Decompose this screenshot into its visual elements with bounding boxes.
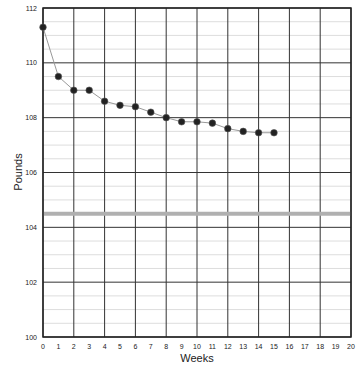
data-point: [148, 109, 155, 116]
svg-text:15: 15: [270, 343, 278, 350]
svg-text:104: 104: [25, 224, 37, 231]
svg-text:106: 106: [25, 169, 37, 176]
data-point: [271, 129, 278, 136]
y-axis-ticks: 100102104106108110112: [25, 5, 37, 341]
svg-text:100: 100: [25, 334, 37, 341]
svg-text:8: 8: [164, 343, 168, 350]
weight-chart: 01234567891011121314151617181920 1001021…: [0, 0, 359, 384]
svg-text:110: 110: [26, 59, 37, 66]
svg-text:11: 11: [209, 343, 216, 350]
svg-text:13: 13: [239, 343, 247, 350]
svg-text:102: 102: [25, 279, 37, 286]
data-point: [40, 24, 47, 31]
svg-text:19: 19: [332, 343, 340, 350]
data-point: [194, 118, 201, 125]
major-grid: [43, 8, 351, 337]
y-axis-label: Pounds: [12, 153, 24, 191]
data-point: [255, 129, 262, 136]
svg-text:6: 6: [133, 343, 137, 350]
svg-text:4: 4: [103, 343, 107, 350]
svg-text:16: 16: [286, 343, 294, 350]
svg-text:7: 7: [149, 343, 153, 350]
svg-text:20: 20: [347, 343, 355, 350]
data-point: [117, 102, 124, 109]
data-point: [178, 118, 185, 125]
svg-text:2: 2: [72, 343, 76, 350]
data-series: [40, 24, 278, 136]
x-axis-label: Weeks: [180, 352, 214, 364]
svg-text:112: 112: [26, 5, 37, 12]
svg-text:108: 108: [25, 114, 37, 121]
data-point: [240, 128, 247, 135]
svg-text:1: 1: [56, 343, 60, 350]
data-point: [163, 114, 170, 121]
data-point: [209, 120, 216, 127]
svg-text:5: 5: [118, 343, 122, 350]
data-point: [132, 103, 139, 110]
data-point: [55, 73, 62, 80]
data-point: [101, 98, 108, 105]
svg-text:17: 17: [301, 343, 309, 350]
data-point: [225, 125, 232, 132]
svg-text:14: 14: [255, 343, 263, 350]
svg-text:12: 12: [224, 343, 232, 350]
svg-text:18: 18: [316, 343, 324, 350]
svg-text:10: 10: [193, 343, 201, 350]
x-axis-ticks: 01234567891011121314151617181920: [41, 343, 355, 350]
svg-text:0: 0: [41, 343, 45, 350]
data-point: [71, 87, 78, 94]
data-point: [86, 87, 93, 94]
svg-text:9: 9: [180, 343, 184, 350]
svg-text:3: 3: [87, 343, 91, 350]
